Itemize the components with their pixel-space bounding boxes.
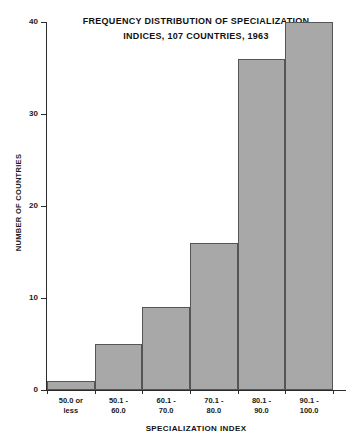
x-tick-label-line: 80.0 bbox=[190, 406, 238, 416]
x-axis-tick-labels: 50.0 orless50.1 -60.060.1 -70.070.1 -80.… bbox=[47, 396, 333, 422]
x-tick-label: 70.1 -80.0 bbox=[190, 396, 238, 416]
bar bbox=[47, 381, 95, 390]
y-tick-label: 20 bbox=[6, 202, 38, 210]
x-tick-label-line: 90.1 - bbox=[285, 396, 333, 406]
bar bbox=[285, 22, 333, 390]
x-tick-mark bbox=[142, 390, 143, 394]
x-tick-label-line: 60.0 bbox=[95, 406, 143, 416]
x-tick-label: 60.1 -70.0 bbox=[142, 396, 190, 416]
x-tick-mark bbox=[47, 390, 48, 394]
x-tick-label: 80.1 -90.0 bbox=[238, 396, 286, 416]
x-axis-title: SPECIALIZATION INDEX bbox=[46, 424, 346, 433]
histogram-chart: FREQUENCY DISTRIBUTION OF SPECIALIZATION… bbox=[0, 0, 364, 443]
x-tick-label: 50.0 orless bbox=[47, 396, 95, 416]
x-tick-mark bbox=[333, 390, 334, 394]
x-axis-line bbox=[46, 390, 346, 391]
x-tick-label-line: 50.1 - bbox=[95, 396, 143, 406]
x-tick-label-line: 50.0 or bbox=[47, 396, 95, 406]
bar bbox=[142, 307, 190, 390]
y-tick-label: 10 bbox=[6, 294, 38, 302]
x-tick-label-line: 70.1 - bbox=[190, 396, 238, 406]
x-tick-label-line: 60.1 - bbox=[142, 396, 190, 406]
x-tick-mark bbox=[238, 390, 239, 394]
y-tick-label: 40 bbox=[6, 18, 38, 26]
x-tick-label-line: 80.1 - bbox=[238, 396, 286, 406]
bar bbox=[238, 59, 286, 390]
x-tick-label: 50.1 -60.0 bbox=[95, 396, 143, 416]
x-tick-mark bbox=[190, 390, 191, 394]
bar bbox=[95, 344, 143, 390]
y-tick-label: 0 bbox=[6, 386, 38, 394]
bar bbox=[190, 243, 238, 390]
y-tick-label: 30 bbox=[6, 110, 38, 118]
x-tick-mark bbox=[95, 390, 96, 394]
x-tick-label: 90.1 -100.0 bbox=[285, 396, 333, 416]
bars-container bbox=[47, 22, 333, 390]
x-tick-mark bbox=[285, 390, 286, 394]
x-tick-label-line: 70.0 bbox=[142, 406, 190, 416]
x-tick-label-line: 100.0 bbox=[285, 406, 333, 416]
x-tick-label-line: 90.0 bbox=[238, 406, 286, 416]
x-tick-label-line: less bbox=[47, 406, 95, 416]
